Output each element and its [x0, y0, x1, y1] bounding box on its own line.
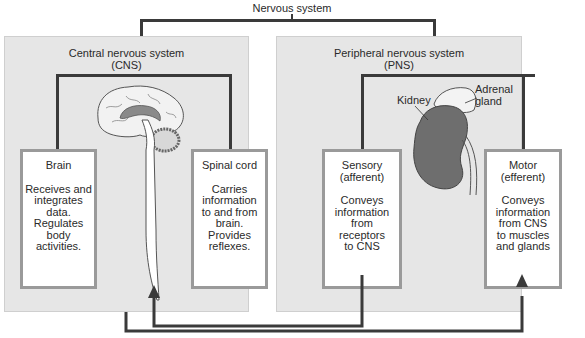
brain-icon — [98, 86, 184, 300]
arrowhead-up-motor — [516, 274, 528, 287]
sensory-to-cns-line — [154, 275, 362, 326]
adrenal-gland-label: Adrenal gland — [475, 83, 513, 107]
kidney-label: Kidney — [397, 94, 431, 106]
connection-arrows — [126, 275, 522, 331]
illustrations-layer — [0, 0, 585, 338]
